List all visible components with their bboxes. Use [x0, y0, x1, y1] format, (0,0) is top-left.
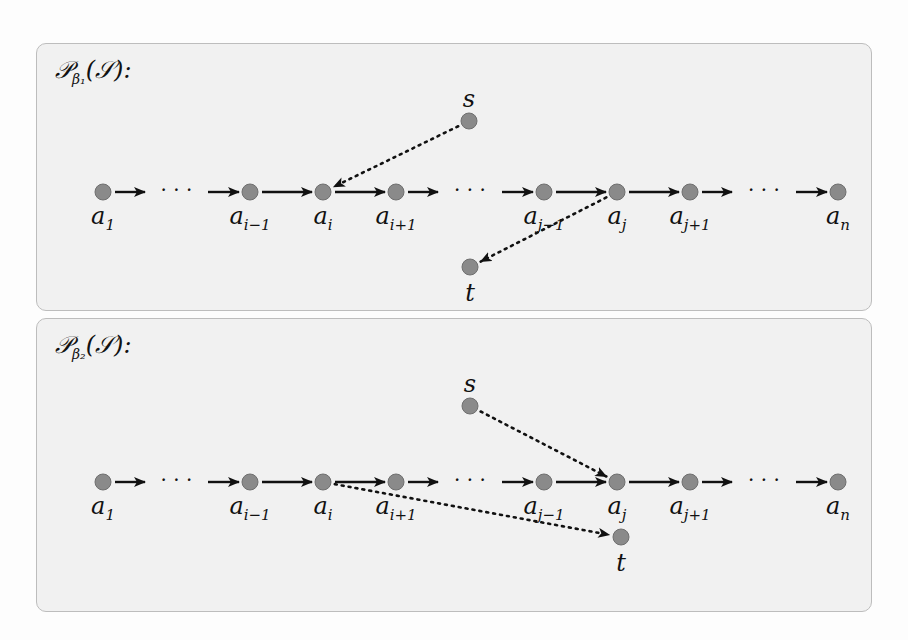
- source-label: s: [464, 370, 476, 398]
- node-a-j−1: [536, 474, 552, 490]
- ellipsis: · · ·: [748, 178, 780, 202]
- node-label: ai: [313, 492, 332, 524]
- node-label: a1: [91, 202, 115, 234]
- ellipsis: · · ·: [454, 468, 486, 492]
- node-a-n: [830, 474, 846, 490]
- node-a-j−1: [536, 184, 552, 200]
- node-t: [613, 529, 629, 545]
- node-a-j+1: [682, 184, 698, 200]
- ellipsis: · · ·: [161, 468, 193, 492]
- node-a-i: [315, 184, 331, 200]
- node-a-j: [609, 184, 625, 200]
- ellipsis: · · ·: [748, 468, 780, 492]
- source-edge: [334, 126, 458, 187]
- node-label: aj: [608, 202, 627, 234]
- node-label: ai−1: [229, 202, 270, 234]
- node-label: aj+1: [669, 492, 710, 524]
- node-a-i+1: [388, 474, 404, 490]
- source-edge: [481, 412, 607, 477]
- path-diagram: · · ·· · ·· · ·a1ai−1aiai+1aj−1ajaj+1ans…: [0, 0, 908, 640]
- node-label: ai+1: [375, 202, 416, 234]
- node-a-i: [315, 474, 331, 490]
- sink-label: t: [465, 279, 475, 307]
- node-a-i−1: [242, 184, 258, 200]
- node-a-1: [95, 184, 111, 200]
- node-s: [461, 113, 477, 129]
- ellipsis: · · ·: [454, 178, 486, 202]
- node-label: ai+1: [375, 492, 416, 524]
- node-a-j+1: [682, 474, 698, 490]
- sink-edge: [481, 197, 607, 261]
- source-label: s: [463, 85, 475, 113]
- chain-beta2: · · ·· · ·· · ·a1ai−1aiai+1aj−1ajaj+1ans…: [91, 370, 850, 577]
- node-a-n: [830, 184, 846, 200]
- ellipsis: · · ·: [161, 178, 193, 202]
- node-label: ai: [313, 202, 332, 234]
- node-label: aj+1: [669, 202, 710, 234]
- node-t: [462, 259, 478, 275]
- node-label: a1: [91, 492, 115, 524]
- node-a-1: [95, 474, 111, 490]
- node-label: ai−1: [229, 492, 270, 524]
- node-a-i+1: [388, 184, 404, 200]
- node-label: an: [826, 492, 850, 524]
- sink-label: t: [616, 549, 626, 577]
- node-a-i−1: [242, 474, 258, 490]
- node-s: [462, 398, 478, 414]
- node-label: an: [826, 202, 850, 234]
- node-a-j: [609, 474, 625, 490]
- node-label: aj: [608, 492, 627, 524]
- chain-beta1: · · ·· · ·· · ·a1ai−1aiai+1aj−1ajaj+1ans…: [91, 85, 850, 307]
